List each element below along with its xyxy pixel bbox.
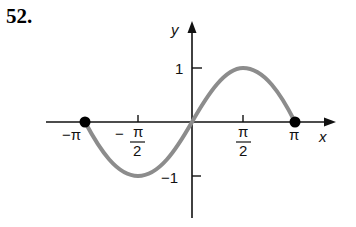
svg-text:−: −: [115, 125, 124, 142]
y-axis-label: y: [170, 21, 180, 38]
x-axis-arrow-icon: [324, 118, 336, 127]
svg-text:2: 2: [239, 142, 247, 159]
label-neg-pi-half: − π 2: [115, 123, 145, 159]
svg-text:π: π: [133, 123, 143, 140]
label-pi-half: π 2: [236, 123, 251, 159]
svg-text:2: 2: [133, 142, 141, 159]
label-y-neg1: −1: [161, 169, 178, 186]
sine-graph: y x −π π − π 2 π 2 1 −1: [0, 0, 356, 227]
label-neg-pi: −π: [62, 126, 81, 143]
svg-text:π: π: [238, 123, 248, 140]
y-axis-arrow-icon: [188, 21, 197, 33]
x-axis-label: x: [318, 128, 327, 145]
label-pi: π: [289, 126, 299, 143]
label-y-1: 1: [175, 60, 183, 77]
endpoint-neg-pi: [80, 117, 91, 128]
